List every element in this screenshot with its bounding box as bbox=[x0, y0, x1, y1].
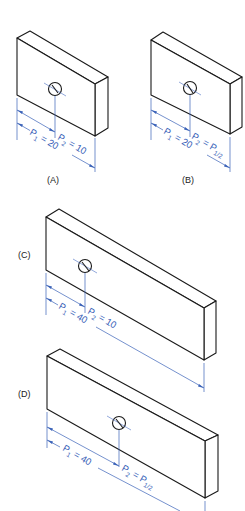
dim-p1-d: P1 = 40 bbox=[60, 442, 94, 469]
block-b bbox=[151, 32, 242, 134]
panel-a: P1 = 20 P2 = 10 (A) bbox=[17, 31, 108, 185]
block-c bbox=[46, 209, 216, 360]
panel-label-b: (B) bbox=[182, 175, 194, 185]
panel-d: P1 = 40 P2 = P1/2 (D) bbox=[18, 349, 218, 511]
block-a bbox=[17, 31, 108, 136]
dim-p2-c: P2 = 10 bbox=[85, 305, 119, 332]
panel-label-a: (A) bbox=[47, 175, 59, 185]
dim-p1-c: P1 = 40 bbox=[56, 300, 90, 327]
isometric-figure: P1 = 20 P2 = 10 (A) P1 = 20 P2 = bbox=[0, 0, 245, 511]
panel-label-c: (C) bbox=[18, 250, 31, 260]
panel-b: P1 = 20 P2 = P1/2 (B) bbox=[151, 32, 242, 185]
dim-p2-a: P2 = 10 bbox=[55, 131, 89, 158]
panel-label-d: (D) bbox=[18, 389, 31, 399]
